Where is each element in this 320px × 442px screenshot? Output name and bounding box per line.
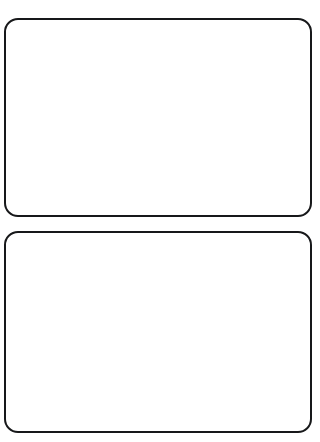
card-content-1: [6, 20, 310, 215]
card-region-1[interactable]: [4, 18, 312, 217]
card-region-2[interactable]: [4, 231, 312, 433]
page-canvas: [0, 0, 320, 442]
card-content-2: [6, 233, 310, 431]
